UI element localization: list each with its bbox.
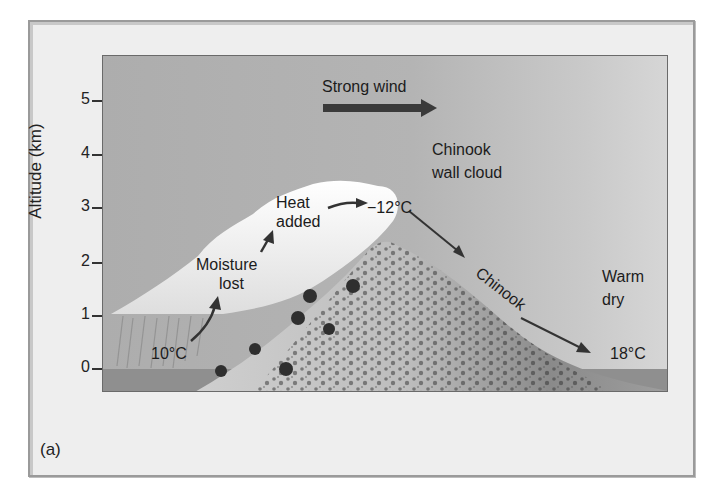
y-tick-4 [92,154,102,156]
heat-added-label-1: Heat [276,194,310,212]
temperature-summit-label: −12°C [367,199,412,217]
warm-dry-label-1: Warm [602,268,644,286]
chinook-wall-cloud-label-1: Chinook [432,141,491,159]
y-tick-0 [92,368,102,370]
panel-label: (a) [40,440,61,460]
y-tick-label-3: 3 [76,197,90,215]
heat-added-label-2: added [276,213,321,231]
illustration-graphics [103,56,668,392]
strong-wind-label: Strong wind [322,78,407,96]
y-tick-2 [92,262,102,264]
y-axis-title: Altitude (km) [26,111,46,231]
temperature-windward-label: 10°C [151,345,187,363]
chinook-illustration [102,55,668,392]
y-tick-3 [92,207,102,209]
strong-wind-arrow [323,99,437,117]
temperature-leeward-label: 18°C [610,345,646,363]
warm-dry-label-2: dry [602,291,624,309]
moisture-lost-label-2: lost [219,275,244,293]
y-tick-label-5: 5 [76,90,90,108]
y-tick-label-4: 4 [76,144,90,162]
moisture-lost-label-1: Moisture [196,256,257,274]
y-tick-label-2: 2 [76,252,90,270]
chinook-arrow-upper [409,211,458,251]
y-tick-1 [92,315,102,317]
y-tick-label-1: 1 [76,305,90,323]
chinook-wall-cloud-label-2: wall cloud [432,164,502,182]
y-tick-label-0: 0 [76,358,90,376]
y-tick-5 [92,100,102,102]
